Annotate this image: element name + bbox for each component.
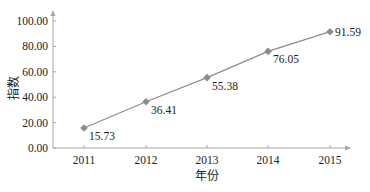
y-tick-label: 0.00 [28, 142, 48, 154]
y-tick-label: 20.00 [22, 117, 48, 129]
diamond-marker-icon [326, 28, 334, 36]
y-tick-label: 100.00 [16, 15, 48, 27]
x-tick-label: 2012 [135, 154, 158, 166]
y-axis-title: 指数 [6, 76, 21, 100]
y-tick-label: 40.00 [22, 91, 48, 103]
x-tick-label: 2013 [196, 154, 219, 166]
y-axis: 0.0020.0040.0060.0080.00100.00 [16, 10, 56, 154]
data-label: 15.73 [89, 130, 115, 142]
x-tick-label: 2014 [257, 154, 280, 166]
y-tick-label: 60.00 [22, 66, 48, 78]
x-tick-label: 2015 [319, 154, 342, 166]
diamond-marker-icon [264, 48, 272, 56]
x-axis-title: 年份 [195, 169, 219, 183]
series-line [80, 28, 334, 132]
diamond-marker-icon [203, 74, 211, 82]
line-chart: 0.0020.0040.0060.0080.00100.00 201120122… [0, 0, 370, 192]
diamond-marker-icon [142, 98, 150, 106]
data-labels: 15.7336.4155.3876.0591.59 [89, 26, 361, 142]
x-axis: 20112012201320142015 [53, 145, 351, 166]
x-tick-label: 2011 [73, 154, 96, 166]
data-label: 36.41 [151, 104, 177, 116]
diamond-marker-icon [80, 124, 88, 132]
y-axis-arrow-icon [51, 10, 56, 16]
data-label: 91.59 [335, 26, 361, 38]
y-tick-label: 80.00 [22, 40, 48, 52]
data-label: 55.38 [212, 80, 238, 92]
data-label: 76.05 [273, 53, 299, 65]
x-axis-arrow-icon [345, 146, 351, 151]
